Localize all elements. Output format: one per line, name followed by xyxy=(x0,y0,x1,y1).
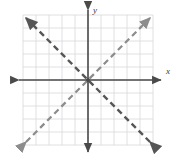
origin-point xyxy=(86,78,90,82)
graph-canvas: y x xyxy=(0,0,178,162)
x-axis-label: x xyxy=(165,66,170,76)
coordinate-plane-figure: y x xyxy=(0,0,178,162)
y-axis-label: y xyxy=(92,5,97,15)
